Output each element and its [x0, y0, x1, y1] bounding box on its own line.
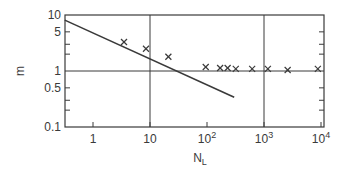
x-marker [121, 39, 127, 45]
x-marker [285, 67, 291, 73]
y-tick-label: 1 [54, 64, 61, 78]
gridlines [65, 15, 324, 127]
x-tick-label: 103 [255, 130, 273, 146]
x-tick-label: 10 [143, 132, 157, 146]
x-marker [165, 54, 171, 60]
y-tick-label: 0.5 [44, 81, 61, 95]
y-tick-label: 0.1 [44, 120, 61, 134]
x-axis-tick-labels: 110102103104 [90, 130, 331, 146]
y-tick-label: 10 [48, 8, 62, 22]
x-tick-label: 1 [90, 132, 97, 146]
x-marker [143, 46, 149, 52]
x-marker [225, 65, 231, 71]
y-tick-label: 5 [54, 25, 61, 39]
x-axis-label-subscript: L [202, 157, 207, 167]
y-axis-label: m [13, 66, 27, 76]
data-series [65, 20, 321, 97]
x-axis-label: NL [193, 151, 207, 167]
x-marker [203, 64, 209, 70]
x-axis-label-main: N [193, 151, 202, 165]
y-axis-tick-labels: 10510.50.1 [44, 8, 61, 134]
chart-plot: 110102103104 10510.50.1 m NL [0, 0, 354, 180]
fit-line [65, 20, 234, 97]
x-tick-label: 104 [312, 130, 330, 146]
x-tick-label: 102 [198, 130, 216, 146]
x-marker [217, 65, 223, 71]
